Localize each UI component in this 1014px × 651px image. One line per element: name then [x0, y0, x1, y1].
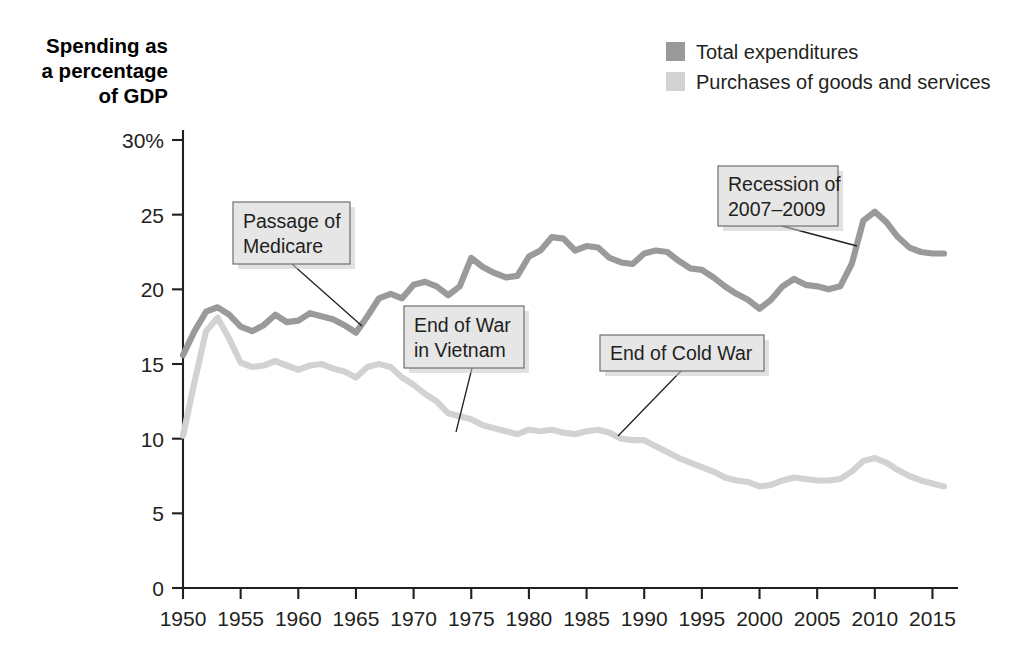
- annotation-label: Medicare: [243, 235, 323, 257]
- spending-percentage-gdp-line-chart: Spending asa percentageof GDP Total expe…: [0, 0, 1014, 651]
- legend-label: Purchases of goods and services: [696, 71, 991, 93]
- y-axis-label-line: a percentage: [42, 59, 168, 82]
- x-tick-label: 1950: [160, 607, 207, 630]
- x-tick-label: 2005: [794, 607, 841, 630]
- x-tick-label: 2015: [909, 607, 956, 630]
- y-tick-label: 15: [141, 353, 164, 376]
- y-axis-label-line: Spending as: [46, 34, 168, 57]
- y-tick-label: 0: [152, 577, 164, 600]
- x-tick-label: 1975: [448, 607, 495, 630]
- x-tick-label: 2000: [736, 607, 783, 630]
- y-tick-label: 20: [141, 278, 164, 301]
- legend-swatch: [666, 72, 685, 91]
- x-tick-label: 1960: [275, 607, 322, 630]
- annotation-label: 2007–2009: [728, 198, 826, 220]
- x-tick-label: 1970: [390, 607, 437, 630]
- x-tick-label: 2010: [851, 607, 898, 630]
- x-tick-label: 1995: [679, 607, 726, 630]
- chart-container: Spending asa percentageof GDP Total expe…: [0, 0, 1014, 651]
- y-tick-label: 5: [152, 502, 164, 525]
- annotation-label: Passage of: [243, 210, 341, 232]
- annotation-label: End of War: [414, 314, 511, 336]
- x-tick-label: 1980: [506, 607, 553, 630]
- x-tick-label: 1985: [563, 607, 610, 630]
- y-tick-label: 30%: [122, 129, 164, 152]
- y-tick-label: 10: [141, 428, 164, 451]
- annotation-label: Recession of: [728, 173, 841, 195]
- legend-label: Total expenditures: [696, 41, 858, 63]
- x-tick-label: 1955: [217, 607, 264, 630]
- annotation-label: in Vietnam: [414, 339, 506, 361]
- x-tick-label: 1965: [333, 607, 380, 630]
- y-axis-label-line: of GDP: [99, 84, 168, 107]
- x-tick-label: 1990: [621, 607, 668, 630]
- y-tick-label: 25: [141, 204, 164, 227]
- annotation-label: End of Cold War: [610, 342, 753, 364]
- legend-swatch: [666, 42, 685, 61]
